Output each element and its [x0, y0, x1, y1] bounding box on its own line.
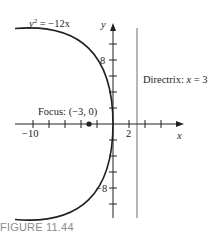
directrix-label: Directrix: x = 3: [143, 74, 208, 85]
y-axis-arrow-icon: [110, 23, 116, 31]
x-axis-arrow-icon: [176, 121, 184, 127]
y-tick-label-8: 8: [100, 55, 105, 66]
focus-point: [86, 121, 91, 126]
x-tick-label-neg10: −10: [22, 128, 38, 139]
focus-label: Focus: (−3, 0): [38, 106, 98, 118]
x-axis-label: x: [176, 130, 182, 141]
y-axis-label: y: [100, 19, 106, 30]
parabola-figure: y2 = −12x y x 8 −8 −10 2 Focus: (−3, 0) …: [0, 0, 219, 237]
x-tick-label-2: 2: [126, 128, 131, 139]
figure-caption: FIGURE 11.44: [0, 221, 74, 233]
y-tick-label-neg8: −8: [96, 183, 107, 194]
